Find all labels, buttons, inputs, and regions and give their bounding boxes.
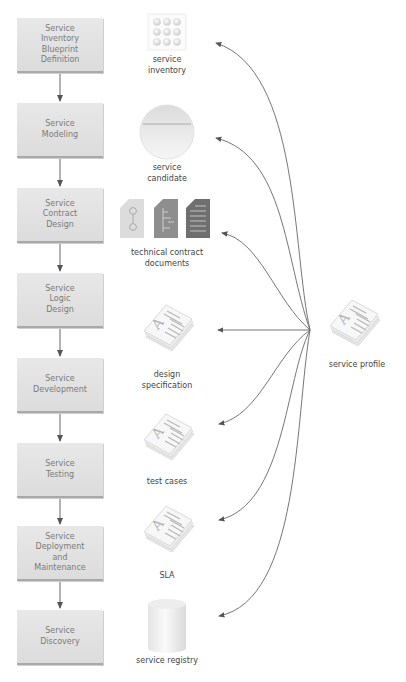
design-specification-document-icon [144,305,194,351]
profile-connectors [216,43,310,616]
artifact-label-technical-contract-documents: technical contract documents [107,248,227,269]
test-cases-document-icon [144,414,194,460]
service-candidate-circle-icon [140,105,194,159]
hub-label-service-profile: service profile [297,360,406,371]
service-inventory-grid-icon [148,14,186,50]
artifact-label-design-specification: design specification [107,370,227,391]
artifact-label-service-inventory: service inventory [107,55,227,76]
artifact-label-service-registry: service registry [107,656,227,667]
sla-document-icon [144,506,194,552]
technical-contract-documents-icon [120,199,210,238]
database-cylinder-icon [148,599,186,653]
artifact-label-sla: SLA [107,571,227,582]
service-profile-document-icon [330,300,380,346]
artifact-label-test-cases: test cases [107,477,227,488]
artifact-label-service-candidate: service candidate [107,163,227,184]
service-lifecycle-diagram: Service Inventory Blueprint Definition S… [0,0,406,682]
